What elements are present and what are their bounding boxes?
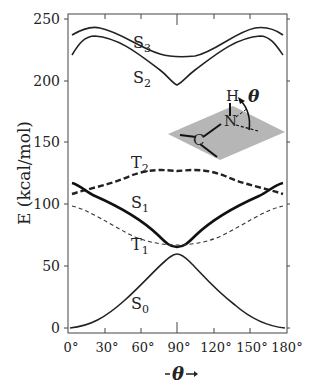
inset-atom-n: N	[224, 112, 237, 130]
y-tick-label: 0	[51, 320, 60, 336]
y-axis-ticks	[64, 19, 290, 328]
x-axis-title: θ	[165, 363, 198, 384]
label-s2: S2	[133, 68, 151, 90]
x-tick-label: 120°	[200, 340, 231, 355]
inset-molecule-diagram: H N C θ	[168, 86, 285, 160]
label-t1: T1	[131, 235, 149, 257]
x-tick-labels: 0° 30° 60° 90° 120° 150° 180°	[64, 340, 303, 355]
plot-frame	[68, 14, 287, 333]
y-tick-labels: 0 50 100 150 200 250	[33, 11, 60, 336]
x-tick-label: 60°	[131, 340, 154, 355]
inset-theta: θ	[248, 86, 260, 106]
curve-s1	[72, 183, 283, 247]
x-tick-label: 30°	[95, 340, 118, 355]
curve-s2	[72, 36, 283, 85]
label-s3: S3	[133, 33, 151, 55]
curve-s3	[72, 27, 283, 56]
label-t2: T2	[131, 153, 149, 175]
x-tick-label: 90°	[167, 340, 190, 355]
energy-curve-chart: 0 50 100 150 200 250 0° 30° 60° 90° 120°…	[0, 0, 309, 388]
x-axis-theta: θ	[172, 363, 184, 384]
x-tick-label: 150°	[236, 340, 267, 355]
x-tick-label: 0°	[64, 340, 79, 355]
inset-atom-h: H	[226, 87, 239, 105]
x-axis-ticks	[105, 14, 250, 333]
label-s0: S0	[131, 294, 149, 316]
inset-atom-c: C	[193, 131, 204, 149]
curve-s0	[70, 254, 285, 328]
y-axis-title: E (kcal/mol)	[14, 121, 34, 225]
curve-t2	[72, 170, 283, 194]
y-tick-label: 150	[33, 134, 60, 150]
curve-t1	[72, 206, 283, 245]
arrow-right-icon	[194, 371, 198, 377]
y-tick-label: 100	[33, 196, 60, 212]
y-tick-label: 50	[42, 258, 60, 274]
y-tick-label: 200	[33, 73, 60, 89]
label-s1: S1	[131, 193, 149, 215]
y-tick-label: 250	[33, 11, 60, 27]
x-tick-label: 180°	[271, 340, 302, 355]
